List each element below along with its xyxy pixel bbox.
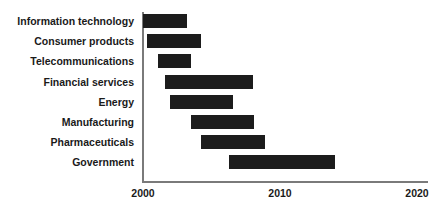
bar-government bbox=[229, 155, 334, 169]
y-axis-line bbox=[142, 12, 144, 182]
bar-consumer-products bbox=[147, 34, 200, 48]
plot-area bbox=[0, 0, 433, 214]
bar-pharmaceuticals bbox=[201, 135, 265, 149]
x-axis-line bbox=[142, 181, 428, 183]
x-tick-label: 2010 bbox=[268, 187, 291, 199]
bar-telecommunications bbox=[158, 54, 191, 68]
x-tick-label: 2000 bbox=[131, 187, 154, 199]
bar-financial-services bbox=[165, 75, 253, 89]
bar-manufacturing bbox=[191, 115, 254, 129]
bar-energy bbox=[170, 95, 233, 109]
x-tick-label: 2020 bbox=[405, 187, 428, 199]
gantt-chart: Information technologyConsumer productsT… bbox=[0, 0, 433, 214]
bar-information-technology bbox=[143, 14, 187, 28]
